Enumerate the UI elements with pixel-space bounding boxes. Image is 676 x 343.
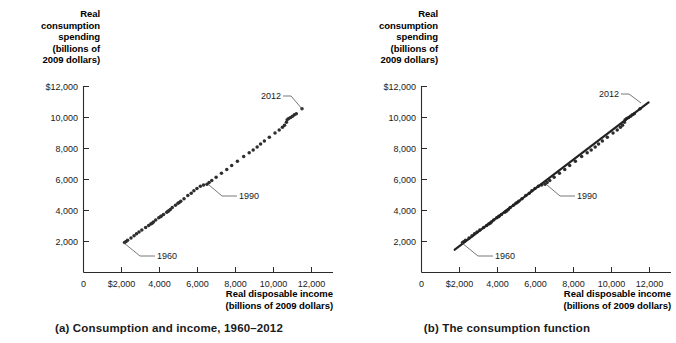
data-point: [129, 236, 133, 240]
data-point: [189, 192, 193, 196]
panel-b-leader-1990: [547, 185, 575, 196]
panel-a: Real consumption spending (billions of 2…: [0, 0, 338, 343]
figure-root: { "figure": { "background": "#ffffff", "…: [0, 0, 676, 343]
data-point: [162, 213, 166, 217]
data-point: [220, 172, 224, 176]
panel-a-annot-1960: 1960: [157, 251, 177, 261]
data-point: [283, 124, 287, 128]
data-point: [242, 155, 246, 159]
data-point: [210, 179, 214, 183]
data-point: [277, 128, 281, 132]
panel-a-x-axis-title: Real disposable income (billions of 2009…: [175, 288, 333, 311]
panel-a-annot-1990: 1990: [239, 191, 259, 201]
data-point: [606, 136, 610, 140]
data-point: [195, 187, 199, 191]
panel-b-y-ticklabels: $12,000 10,000 8,000 6,000 4,000 2,000: [383, 82, 416, 247]
panel-a-leader-1990: [209, 185, 237, 196]
panel-b-annot-2012: 2012: [599, 89, 619, 99]
panel-a-ytick-8000: 8,000: [55, 144, 78, 154]
panel-b-x-axis-title: Real disposable income (billions of 2009…: [513, 288, 671, 311]
data-point: [255, 145, 259, 149]
panel-b-ytick-6000: 6,000: [393, 175, 416, 185]
data-point: [199, 185, 203, 189]
panel-a-ytick-12000: $12,000: [45, 82, 78, 92]
panel-a-xtick-0: 0: [81, 279, 86, 289]
data-point: [263, 139, 267, 143]
panel-a-xtick-2000: $2,000: [108, 279, 136, 289]
panel-b-caption: (b) The consumption function: [338, 322, 676, 334]
data-point: [585, 151, 589, 155]
data-point: [295, 112, 299, 116]
panel-b: Real consumption spending (billions of 2…: [338, 0, 676, 343]
data-point: [259, 142, 263, 146]
panel-b-ytick-12000: $12,000: [383, 82, 416, 92]
data-point: [230, 164, 234, 168]
data-point: [126, 239, 130, 243]
data-point: [170, 206, 174, 210]
panel-a-ytick-10000: 10,000: [50, 113, 78, 123]
data-point: [225, 168, 229, 172]
panel-a-ytick-6000: 6,000: [55, 175, 78, 185]
data-point: [182, 197, 186, 201]
panel-a-svg: $12,000 10,000 8,000 6,000 4,000 2,000 0…: [0, 0, 338, 300]
data-point: [615, 128, 619, 132]
panel-a-ytick-4000: 4,000: [55, 206, 78, 216]
data-point: [593, 145, 597, 149]
panel-a-leader-1960: [124, 243, 155, 256]
panel-b-ytick-2000: 2,000: [393, 237, 416, 247]
panel-a-plot: $12,000 10,000 8,000 6,000 4,000 2,000 0…: [0, 0, 338, 300]
data-point: [236, 159, 240, 163]
panel-b-svg: $12,000 10,000 8,000 6,000 4,000 2,000 0…: [338, 0, 676, 300]
panel-a-annot-2012: 2012: [261, 91, 281, 101]
panel-b-xtick-0: 0: [419, 279, 424, 289]
data-point: [179, 199, 183, 203]
panel-a-caption: (a) Consumption and income, 1960–2012: [0, 322, 338, 334]
data-point: [251, 148, 255, 152]
panel-a-xtick-4000: 4,000: [148, 279, 171, 289]
panel-b-x-ticks: [460, 267, 650, 273]
panel-b-annot-1960: 1960: [495, 251, 515, 261]
data-point: [589, 148, 593, 152]
panel-b-ytick-8000: 8,000: [393, 144, 416, 154]
data-point: [137, 230, 141, 234]
data-point: [140, 228, 144, 232]
panel-b-xtick-4000: 4,000: [486, 279, 509, 289]
data-point: [247, 151, 251, 155]
data-point: [192, 189, 196, 193]
data-point: [268, 136, 272, 140]
panel-b-consumption-function-line: [455, 102, 649, 249]
data-point: [144, 226, 148, 230]
panel-b-xtick-2000: $2,000: [446, 279, 474, 289]
panel-a-data-points: [123, 107, 304, 244]
panel-a-x-ticks: [122, 267, 312, 273]
data-point: [597, 142, 601, 146]
panel-a-y-ticks: [84, 87, 90, 242]
panel-b-annot-1990: 1990: [577, 191, 597, 201]
panel-a-annotations: 1960 1990 2012: [124, 91, 303, 261]
panel-b-y-ticks: [422, 87, 428, 242]
data-point: [214, 176, 218, 180]
panel-a-y-ticklabels: $12,000 10,000 8,000 6,000 4,000 2,000: [45, 82, 78, 247]
panel-a-ytick-2000: 2,000: [55, 237, 78, 247]
panel-b-ytick-4000: 4,000: [393, 206, 416, 216]
panel-b-leader-2012: [621, 94, 641, 103]
data-point: [186, 194, 190, 198]
panel-a-leader-2012: [283, 96, 303, 110]
data-point: [202, 183, 206, 187]
panel-b-plot: $12,000 10,000 8,000 6,000 4,000 2,000 0…: [338, 0, 676, 300]
panel-b-leader-1960: [462, 243, 493, 256]
data-point: [154, 218, 158, 222]
data-point: [273, 131, 277, 135]
panel-b-ytick-10000: 10,000: [388, 113, 416, 123]
